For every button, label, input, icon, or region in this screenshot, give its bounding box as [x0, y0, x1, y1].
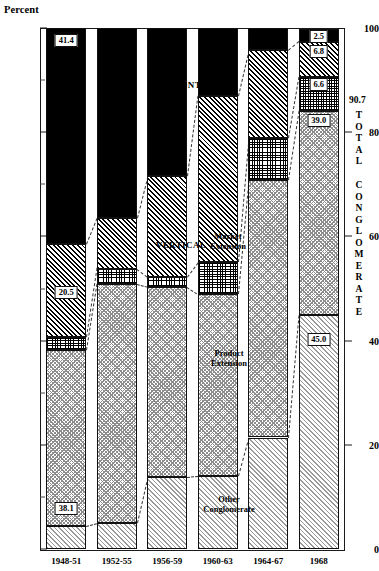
value-label-horizontal-1968: 2.5	[309, 30, 328, 43]
annotation-vertical: VERTICAL	[156, 240, 206, 250]
bar-1948-51: 38.120.541.4	[46, 28, 86, 549]
y-tick-right-60	[345, 236, 352, 237]
annotation-market-extension-line1: Market	[210, 231, 246, 241]
annotation-product-extension-line2: Extension	[211, 358, 247, 368]
y-tick-right-20	[345, 444, 352, 445]
value-label-vertical-1948-51: 20.5	[55, 286, 78, 299]
tc-t: T	[352, 110, 366, 122]
tcc-o: O	[352, 192, 366, 204]
value-label-product-1968: 39.0	[307, 114, 330, 127]
annotation-other-conglomerate: Other Conglomerate	[203, 494, 254, 514]
tcc-m: M	[352, 249, 366, 261]
tc-o: O	[352, 122, 366, 134]
tc-a: A	[352, 145, 366, 157]
tc-l: L	[352, 156, 366, 168]
annotation-market-extension-line2: Extension	[210, 241, 246, 251]
value-label-vertical-1968: 6.8	[309, 45, 328, 58]
value-label-horizontal-1948-51: 41.4	[55, 34, 78, 47]
segment-horizontal-1964-67	[248, 28, 288, 50]
annotation-market-extension: Market Extension	[210, 231, 246, 251]
segment-product-1968	[299, 111, 339, 314]
stacked-bar-chart: Percent 020406080100 38.120.541.445.039.…	[0, 0, 379, 571]
segment-other-1952-55	[97, 523, 137, 549]
total-conglomerate-word-total: T O T A L	[352, 110, 366, 168]
segment-horizontal-1956-59	[147, 28, 187, 176]
bar-1952-55	[97, 28, 137, 549]
value-label-other-1968: 45.0	[307, 333, 330, 346]
annotation-other-conglomerate-line2: Conglomerate	[203, 504, 254, 514]
segment-product-1960-63	[198, 294, 238, 476]
segment-product-1948-51	[46, 350, 86, 525]
bar-1956-59	[147, 28, 187, 549]
annotation-product-extension-line1: Product	[211, 348, 247, 358]
segment-market-1948-51	[46, 337, 86, 350]
segment-market-1956-59	[147, 277, 187, 287]
tcc-l: L	[352, 226, 366, 238]
x-tick-label-1964-67: 1964-67	[253, 556, 283, 566]
value-label-product-1948-51: 38.1	[55, 502, 78, 515]
bar-1968: 45.039.06.66.82.5	[299, 28, 339, 549]
y-tick-label-0: 0	[345, 544, 379, 555]
segment-product-1956-59	[147, 287, 187, 477]
tcc-a: A	[352, 284, 366, 296]
tcc-e2: E	[352, 307, 366, 319]
bar-1960-63	[198, 28, 238, 549]
segment-product-1964-67	[248, 180, 288, 437]
x-tick-label-1948-51: 1948-51	[51, 556, 81, 566]
segment-market-1964-67	[248, 138, 288, 180]
segment-market-1952-55	[97, 269, 137, 285]
y-tick-minor-30	[40, 392, 45, 393]
x-tick-label-1956-59: 1956-59	[152, 556, 182, 566]
segment-vertical-1964-67	[248, 50, 288, 138]
segment-product-1952-55	[97, 284, 137, 523]
total-conglomerate-word-conglomerate: C O N G L O M E R A T E	[352, 180, 366, 318]
y-tick-minor-90	[40, 80, 45, 81]
tcc-c: C	[352, 180, 366, 192]
x-tick-label-1952-55: 1952-55	[102, 556, 132, 566]
segment-other-1948-51	[46, 526, 86, 549]
y-tick-minor-10	[40, 496, 45, 497]
segment-horizontal-1952-55	[97, 28, 137, 218]
tcc-e: E	[352, 261, 366, 273]
tcc-o2: O	[352, 238, 366, 250]
tcc-t: T	[352, 295, 366, 307]
total-conglomerate-value: 90.7	[349, 95, 366, 105]
y-tick-right-80	[345, 132, 352, 133]
segment-vertical-1956-59	[147, 176, 187, 276]
y-axis-title: Percent	[4, 4, 39, 15]
annotation-other-conglomerate-line1: Other	[203, 494, 254, 504]
y-tick-minor-70	[40, 184, 45, 185]
bar-1964-67	[248, 28, 288, 549]
annotation-product-extension: Product Extension	[211, 348, 247, 368]
tcc-n: N	[352, 203, 366, 215]
y-tick-label-100: 100	[345, 23, 379, 34]
segment-other-1968	[299, 315, 339, 549]
tcc-r: R	[352, 272, 366, 284]
tc-t2: T	[352, 133, 366, 145]
value-label-market-1968: 6.6	[309, 78, 328, 91]
segment-market-1960-63	[198, 262, 238, 293]
annotation-horizontal: HORIZONTAL	[148, 80, 213, 90]
segment-vertical-1952-55	[97, 218, 137, 269]
x-tick-label-1968: 1968	[310, 556, 328, 566]
tcc-g: G	[352, 215, 366, 227]
segment-horizontal-1948-51	[46, 28, 86, 244]
segment-other-1956-59	[147, 477, 187, 549]
y-tick-minor-50	[40, 288, 45, 289]
x-tick-label-1960-63: 1960-63	[203, 556, 233, 566]
y-tick-right-40	[345, 340, 352, 341]
